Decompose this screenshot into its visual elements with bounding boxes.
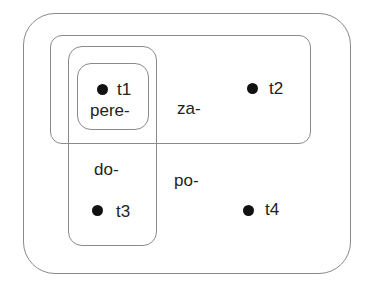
point-t3-label: t3 <box>116 203 130 220</box>
point-t1-dot <box>97 84 108 95</box>
region-po-label: po- <box>174 172 199 189</box>
region-za-label: za- <box>177 100 201 117</box>
point-t2-label: t2 <box>269 80 283 97</box>
region-pere-label: pere- <box>90 102 130 119</box>
point-t2-dot <box>247 83 258 94</box>
point-t3-dot <box>92 205 103 216</box>
point-t4-label: t4 <box>265 201 279 218</box>
point-t4-dot <box>243 205 254 216</box>
point-t1-label: t1 <box>117 81 131 98</box>
region-do-label: do- <box>94 161 119 178</box>
